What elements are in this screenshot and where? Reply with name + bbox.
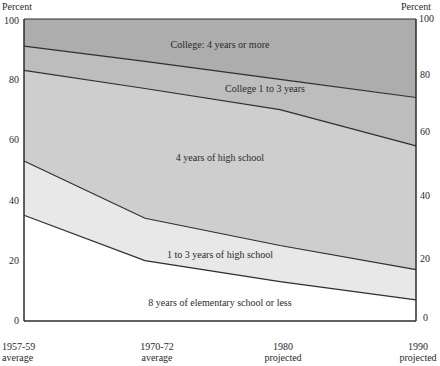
tick-label: 0 xyxy=(14,315,19,326)
x-label-1957: 1957-59 xyxy=(2,341,35,352)
tick-label: 100 xyxy=(4,15,19,26)
label-high-school-1-3-years: 1 to 3 years of high school xyxy=(167,249,273,260)
label-college-4-years: College: 4 years or more xyxy=(171,39,270,50)
y-axis-ticks-left: 100 80 60 40 20 0 xyxy=(4,15,19,326)
label-elementary: 8 years of elementary school or less xyxy=(148,297,291,308)
tick-label: 20 xyxy=(420,253,430,264)
tick-label: 60 xyxy=(420,126,430,137)
tick-label: 20 xyxy=(9,255,19,266)
x-label-1970-sub: average xyxy=(141,352,173,363)
y-axis-ticks-right: 100 80 60 40 20 0 xyxy=(419,13,434,323)
label-college-1-3-years: College 1 to 3 years xyxy=(225,83,305,94)
y-axis-title-left: Percent xyxy=(2,1,32,12)
x-label-1970: 1970-72 xyxy=(140,341,173,352)
tick-label: 80 xyxy=(420,69,430,80)
tick-label: 40 xyxy=(9,195,19,206)
x-label-1980: 1980 xyxy=(273,341,293,352)
stacked-area-chart: Percent Percent 100 80 60 40 20 0 100 80… xyxy=(0,0,440,366)
tick-label: 100 xyxy=(419,13,434,24)
tick-label: 40 xyxy=(420,190,430,201)
tick-label: 0 xyxy=(423,312,428,323)
tick-label: 60 xyxy=(9,134,19,145)
label-high-school-4-years: 4 years of high school xyxy=(176,152,265,163)
x-label-1980-sub: projected xyxy=(264,352,301,363)
x-label-1990-sub: projected xyxy=(399,352,436,363)
x-label-1957-sub: average xyxy=(2,352,34,363)
y-axis-title-right: Percent xyxy=(401,1,431,12)
x-axis-labels: 1957-59 average 1970-72 average 1980 pro… xyxy=(2,341,437,363)
tick-label: 80 xyxy=(9,74,19,85)
x-label-1990: 1990 xyxy=(408,341,428,352)
